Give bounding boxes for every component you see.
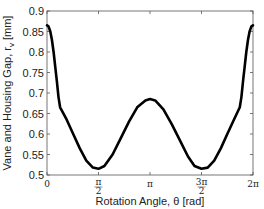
x-tick-label: 0 bbox=[44, 179, 50, 189]
y-tick-label: 0.65 bbox=[23, 108, 44, 120]
y-axis-title: Vane and Housing Gap, rv [mm] bbox=[1, 16, 16, 171]
line-chart: 0.50.550.60.650.70.750.80.850.9 0π2π3π22… bbox=[0, 0, 264, 209]
y-tick-label: 0.7 bbox=[29, 87, 44, 99]
y-tick-label: 0.75 bbox=[23, 67, 44, 79]
y-tick-label: 0.8 bbox=[29, 46, 44, 58]
y-tick-label: 0.9 bbox=[29, 5, 44, 17]
x-tick-label: 2π bbox=[247, 179, 259, 189]
y-tick-label: 0.55 bbox=[23, 149, 44, 161]
plot-area bbox=[47, 11, 253, 175]
x-tick-label: π bbox=[147, 179, 153, 189]
y-tick-label: 0.5 bbox=[29, 169, 44, 181]
y-tick-label: 0.85 bbox=[23, 26, 44, 38]
x-axis-title: Rotation Angle, θ [rad] bbox=[96, 195, 205, 207]
y-tick-label: 0.6 bbox=[29, 128, 44, 140]
